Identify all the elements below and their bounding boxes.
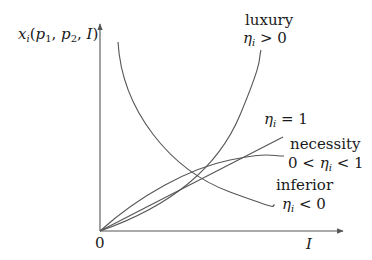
luxury-label: luxury: [245, 11, 294, 29]
necessity-label: necessity: [290, 135, 361, 153]
unit-elasticity-line: [100, 137, 283, 231]
origin-label: 0: [95, 234, 105, 252]
inferior-label: inferior: [276, 176, 334, 194]
x-axis-label: I: [305, 235, 313, 253]
necessity-condition: 0 < ηi < 1: [288, 154, 364, 173]
engel-curves-diagram: xi(p1, p2, I) I 0 luxury ηi > 0 ηi = 1 n…: [0, 0, 372, 260]
inferior-condition: ηi < 0: [282, 195, 326, 214]
y-axis-label: xi(p1, p2, I): [18, 25, 98, 44]
luxury-condition: ηi > 0: [243, 29, 287, 48]
unit-elasticity-condition: ηi = 1: [264, 110, 308, 129]
